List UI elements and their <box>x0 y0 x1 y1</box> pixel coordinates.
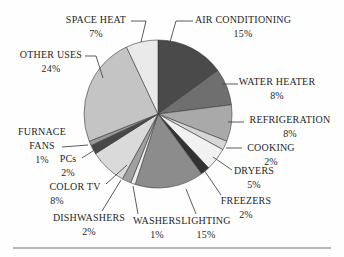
leader-freezers <box>204 170 221 195</box>
callout-lighting-label: LIGHTING <box>181 214 230 228</box>
callout-other-uses-label: OTHER USES <box>20 48 82 62</box>
callout-refrigeration-pct: 8% <box>250 127 331 141</box>
callout-dryers: DRYERS 5% <box>234 164 274 192</box>
callout-lighting: LIGHTING 15% <box>181 214 230 242</box>
leader-dishwashers <box>102 180 121 211</box>
callout-washers-pct: 1% <box>133 228 181 242</box>
bottom-rule <box>13 247 331 249</box>
callout-refrigeration-label: REFRIGERATION <box>250 113 331 127</box>
callout-lighting-pct: 15% <box>181 228 230 242</box>
callout-air-conditioning: AIR CONDITIONING 15% <box>195 13 291 41</box>
callout-color-tv-label: COLOR TV <box>49 180 100 194</box>
callout-cooking-label: COOKING <box>247 141 295 155</box>
leader-pcs <box>82 149 96 158</box>
leader-lighting <box>186 189 196 214</box>
callout-washers: WASHERS 1% <box>133 214 181 242</box>
callout-color-tv-pct: 8% <box>31 194 82 208</box>
callout-dryers-pct: 5% <box>234 178 274 192</box>
callout-freezers-label: FREEZERS <box>221 194 272 208</box>
pie-chart-figure: SPACE HEAT 7% AIR CONDITIONING 15% OTHER… <box>0 0 344 257</box>
callout-water-heater: WATER HEATER 8% <box>239 75 316 103</box>
callout-furnace-fans-label: FURNACE FANS <box>13 125 71 153</box>
callout-space-heat: SPACE HEAT 7% <box>66 13 126 41</box>
callout-dryers-label: DRYERS <box>234 164 274 178</box>
callout-color-tv: COLOR TV 8% <box>49 180 100 208</box>
callout-air-conditioning-pct: 15% <box>195 27 291 41</box>
callout-water-heater-pct: 8% <box>239 89 316 103</box>
callout-furnace-fans-pct: 1% <box>13 153 71 167</box>
callout-refrigeration: REFRIGERATION 8% <box>250 113 331 141</box>
leader-dryers <box>213 157 232 170</box>
callout-other-uses: OTHER USES 24% <box>20 48 82 76</box>
leader-air-conditioning <box>170 21 193 42</box>
callout-space-heat-pct: 7% <box>66 27 126 41</box>
callout-dishwashers-label: DISHWASHERS <box>53 211 125 225</box>
callout-furnace-fans: FURNACE FANS 1% <box>13 125 71 167</box>
callout-other-uses-pct: 24% <box>20 62 82 76</box>
callout-dishwashers-pct: 2% <box>53 225 125 239</box>
callout-air-conditioning-label: AIR CONDITIONING <box>195 13 291 27</box>
callout-dishwashers: DISHWASHERS 2% <box>53 211 125 239</box>
callout-washers-label: WASHERS <box>133 214 181 228</box>
leader-space-heat <box>131 21 146 42</box>
pie-slices <box>84 40 232 188</box>
leader-washers <box>133 186 138 214</box>
callout-water-heater-label: WATER HEATER <box>239 75 316 89</box>
callout-space-heat-label: SPACE HEAT <box>66 13 126 27</box>
callout-pcs-pct: 2% <box>60 166 77 180</box>
